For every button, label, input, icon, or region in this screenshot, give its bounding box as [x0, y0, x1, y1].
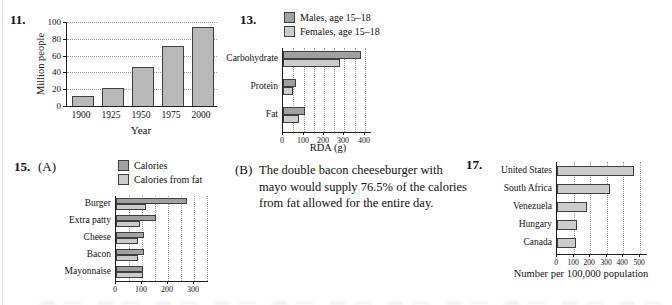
part-b-label: (B) [235, 162, 259, 178]
axis-tick [364, 133, 365, 135]
axis-tick [622, 255, 623, 257]
chart-legend: Males, age 15–18Females, age 15–18 [284, 12, 380, 40]
tick-label: 100 [135, 285, 147, 294]
grid-line [155, 196, 156, 281]
axis-tick [606, 255, 607, 257]
grid-line [168, 196, 169, 281]
legend-swatch-icon [284, 12, 295, 23]
tick-label: 400 [358, 136, 370, 145]
axis-tick [589, 255, 590, 257]
bar-1950 [132, 67, 154, 106]
bar-united-states [557, 166, 634, 176]
bar-mayonnaise [116, 272, 143, 278]
tick-label: 300 [600, 258, 611, 267]
category-label: Protein [251, 81, 278, 91]
part-b-answer: (B) The double bacon cheeseburger with m… [235, 162, 467, 212]
category-label: Cheese [84, 232, 111, 242]
bar-1925 [102, 88, 124, 106]
axis-tick [556, 255, 557, 257]
tick-label: 400 [616, 258, 627, 267]
grid-line [355, 48, 356, 132]
textbook-page: 11. 02040608010019001925195019752000Mill… [0, 0, 672, 305]
legend-label: Females, age 15–18 [300, 26, 380, 37]
tick-label: 100 [567, 258, 578, 267]
axis-tick [63, 106, 66, 107]
tick-label: 200 [583, 258, 594, 267]
category-label: 1900 [72, 110, 91, 120]
tick-label: 500 [633, 258, 644, 267]
legend-item: Calories from fat [118, 174, 202, 185]
tick-label: 100 [48, 17, 62, 27]
category-label: Venezuela [513, 201, 552, 211]
category-label: Bacon [87, 249, 111, 259]
tick-label: 20 [52, 84, 61, 94]
category-label: South Africa [504, 183, 552, 193]
axis-tick [63, 72, 66, 73]
bar-carbohydrate [283, 51, 361, 59]
grid-line [181, 196, 182, 281]
chart-legend: CaloriesCalories from fat [118, 160, 202, 188]
x-axis-title: RDA (g) [310, 142, 346, 153]
part-b-text: The double bacon cheeseburger with mayo … [259, 162, 467, 212]
legend-swatch-icon [118, 174, 129, 185]
category-label: United States [501, 165, 552, 175]
tick-label: 0 [113, 285, 117, 294]
problem-number-11: 11. [10, 12, 26, 28]
category-label: Canada [524, 237, 553, 247]
bar-1975 [162, 46, 184, 106]
axis-tick [63, 39, 66, 40]
category-label: Carbohydrate [226, 53, 278, 63]
category-label: Mayonnaise [65, 266, 111, 276]
bar-fat [283, 107, 305, 115]
bar-2000 [192, 27, 214, 106]
plot-area [282, 48, 371, 133]
chart-11-million-people-bar-chart: 02040608010019001925195019752000Million … [28, 12, 230, 140]
tick-label: 200 [161, 285, 173, 294]
tick-label: 80 [52, 34, 61, 44]
grid-line [67, 22, 217, 23]
chart-17-population-rate-bar-chart: United StatesSouth AfricaVenezuelaHungar… [486, 156, 672, 284]
axis-tick [303, 133, 304, 135]
bar-1900 [72, 96, 94, 106]
bar-bacon [116, 255, 138, 261]
legend-item: Males, age 15–18 [284, 12, 380, 23]
category-label: 1925 [102, 110, 121, 120]
axis-tick [63, 22, 66, 23]
plot-area [556, 162, 647, 255]
page-edge-line [2, 0, 3, 305]
grid-line [365, 48, 366, 132]
category-label: Fat [266, 109, 278, 119]
bar-fat [283, 115, 299, 123]
category-label: Hungary [519, 219, 552, 229]
category-label: Burger [85, 198, 111, 208]
x-axis-title: Year [131, 124, 151, 136]
legend-item: Calories [118, 160, 202, 171]
axis-tick [63, 89, 66, 90]
tick-label: 100 [297, 136, 309, 145]
legend-label: Calories from fat [134, 174, 202, 185]
category-label: 1975 [162, 110, 181, 120]
tick-label: 0 [554, 258, 558, 267]
plot-area [115, 196, 208, 282]
legend-label: Calories [134, 160, 167, 171]
problem-number-17: 17. [466, 157, 482, 173]
tick-label: 60 [52, 51, 61, 61]
bar-south-africa [557, 184, 610, 194]
bar-canada [557, 238, 576, 248]
axis-tick [573, 255, 574, 257]
bar-cheese [116, 238, 138, 244]
axis-tick [639, 255, 640, 257]
axis-tick [323, 133, 324, 135]
bar-protein [283, 87, 293, 95]
bar-hungary [557, 220, 577, 230]
axis-tick [141, 282, 142, 284]
legend-label: Males, age 15–18 [300, 12, 371, 23]
bar-burger [116, 204, 146, 210]
axis-tick [115, 282, 116, 284]
grid-line [344, 48, 345, 132]
axis-tick [193, 282, 194, 284]
tick-label: 40 [52, 67, 61, 77]
bar-extra-patty [116, 221, 140, 227]
grid-line [194, 196, 195, 281]
axis-tick [167, 282, 168, 284]
